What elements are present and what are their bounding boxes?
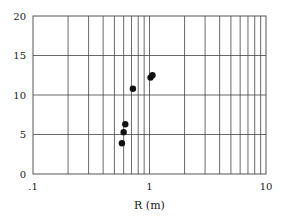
y-tick-label: 5 — [20, 129, 26, 140]
data-point — [120, 129, 126, 135]
data-points — [119, 72, 156, 146]
x-axis-tick-labels: .1110 — [28, 181, 272, 192]
x-tick-label: 1 — [146, 181, 152, 192]
y-tick-label: 20 — [13, 11, 26, 22]
data-point — [122, 121, 128, 127]
data-point — [119, 140, 125, 146]
scatter-chart: 05101520 .1110 R (m) — [0, 0, 283, 222]
y-axis-tick-labels: 05101520 — [13, 11, 26, 180]
x-tick-label: 10 — [260, 181, 273, 192]
data-point — [130, 85, 136, 91]
y-tick-label: 15 — [13, 50, 26, 61]
y-tick-label: 0 — [20, 169, 26, 180]
x-axis-label: R (m) — [134, 199, 165, 212]
y-tick-label: 10 — [13, 90, 26, 101]
data-point — [149, 72, 155, 78]
x-tick-label: .1 — [28, 181, 38, 192]
